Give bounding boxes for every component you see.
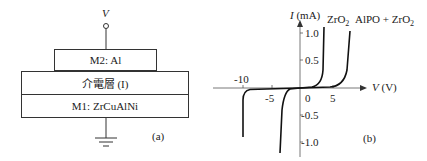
y-tick-neg1.0: -1.0: [301, 137, 318, 148]
x-tick-0: 0: [305, 93, 311, 104]
panel-a-label: (a): [152, 131, 164, 142]
top-electrode: M2: Al: [54, 49, 157, 71]
y-tick-1.0: 1.0: [305, 28, 319, 39]
curve-zro2: [280, 27, 324, 153]
voltage-label: V: [102, 8, 109, 19]
y-axis-label: I (mA): [290, 10, 320, 21]
y-tick-0.5: 0.5: [305, 55, 319, 66]
dielectric-layer: 介電層 (I): [21, 71, 189, 95]
y-tick-neg0.5: -0.5: [301, 110, 318, 121]
bottom-electrode: M1: ZrCuAlNi: [21, 94, 189, 118]
legend-alpo-zro2: AlPO + ZrO2: [355, 14, 414, 28]
curve-alpo-zro2: [243, 31, 350, 137]
panel-b-label: (b): [363, 133, 376, 144]
x-tick-neg10: -10: [234, 74, 249, 85]
x-tick-neg5: -5: [265, 93, 274, 104]
x-tick-5: 5: [330, 93, 336, 104]
legend-zro2: ZrO2: [327, 14, 349, 28]
x-axis-label: V (V): [372, 82, 397, 93]
